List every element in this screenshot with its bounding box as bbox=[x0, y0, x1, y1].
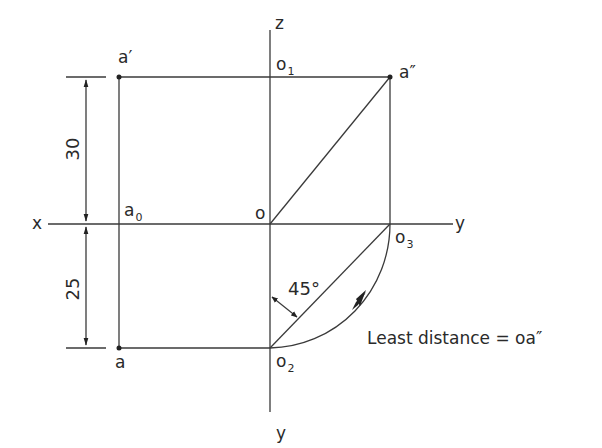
line-o-a-double-prime bbox=[270, 77, 390, 224]
dimension-30: 30 bbox=[64, 138, 82, 161]
dimension-25: 25 bbox=[64, 278, 82, 301]
point-a-prime bbox=[117, 75, 122, 80]
label-a0: a0 bbox=[124, 202, 142, 219]
label-a-double-prime: a″ bbox=[399, 64, 416, 81]
angle-arrow-45 bbox=[272, 297, 297, 317]
label-a: a bbox=[115, 354, 125, 371]
point-a bbox=[117, 346, 122, 351]
x-axis-label: x bbox=[32, 215, 42, 232]
angle-label: 45° bbox=[288, 280, 320, 298]
point-a-double-prime bbox=[388, 75, 393, 80]
y-axis-label-right: y bbox=[455, 215, 465, 232]
label-a-prime: a′ bbox=[118, 49, 132, 66]
label-o: o bbox=[255, 205, 265, 222]
projection-diagram bbox=[0, 0, 602, 448]
y-axis-label-bottom: y bbox=[276, 425, 286, 442]
least-distance-annotation: Least distance = oa″ bbox=[367, 330, 542, 347]
z-axis-label: z bbox=[275, 15, 284, 32]
label-o2: o2 bbox=[276, 353, 294, 370]
label-o1: o1 bbox=[276, 56, 294, 73]
label-o3: o3 bbox=[395, 229, 413, 246]
